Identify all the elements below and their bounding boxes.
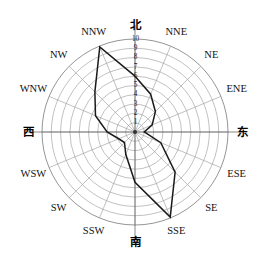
radial-tick-9: 9 — [134, 44, 138, 52]
direction-label-ESE: ESE — [227, 168, 246, 179]
direction-label-NNE: NNE — [166, 26, 188, 37]
wind-rose-plot: 12345678910 北NNENEENE东ESESESSE南SSWSWWSW西… — [0, 0, 271, 265]
direction-label-NW: NW — [50, 49, 68, 60]
direction-label-NE: NE — [204, 49, 218, 60]
radial-tick-5: 5 — [134, 81, 138, 89]
direction-label-SSW: SSW — [83, 225, 105, 236]
direction-label-SW: SW — [51, 202, 67, 213]
wind-rose-chart: 12345678910 北NNENEENE东ESESESSE南SSWSWWSW西… — [0, 0, 271, 265]
direction-label-S: 南 — [130, 235, 142, 249]
direction-label-WSW: WSW — [21, 168, 47, 179]
direction-label-ENE: ENE — [226, 83, 246, 94]
radial-tick-1: 1 — [134, 118, 138, 126]
direction-label-E: 东 — [237, 125, 249, 139]
polar-center-marker — [133, 130, 137, 134]
grid-spoke-SSW — [99, 132, 135, 218]
direction-label-W: 西 — [23, 125, 35, 139]
direction-label-NNW: NNW — [81, 26, 106, 37]
radial-tick-6: 6 — [134, 72, 138, 80]
radial-tick-4: 4 — [134, 90, 138, 98]
grid-spoke-NNW — [99, 46, 135, 132]
radial-tick-8: 8 — [134, 53, 138, 61]
radial-tick-3: 3 — [134, 100, 138, 108]
direction-label-N: 北 — [130, 18, 142, 32]
grid-spoke-NNE — [135, 46, 171, 132]
grid-spoke-SSE — [135, 132, 171, 218]
grid-spoke-WSW — [49, 132, 135, 168]
radial-tick-7: 7 — [134, 63, 138, 71]
grid-spoke-ENE — [135, 96, 221, 132]
radial-tick-10: 10 — [132, 35, 140, 43]
direction-label-SSE: SSE — [167, 225, 185, 236]
grid-spoke-WNW — [49, 96, 135, 132]
direction-label-SE: SE — [205, 202, 217, 213]
grid-spoke-ESE — [135, 132, 221, 168]
direction-label-WNW: WNW — [20, 83, 47, 94]
radial-tick-2: 2 — [134, 109, 138, 117]
